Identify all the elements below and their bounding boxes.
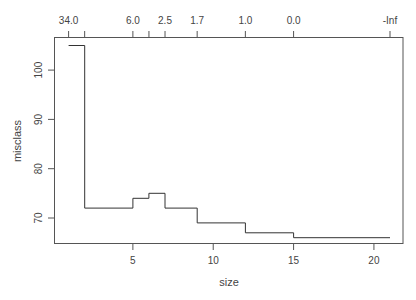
top-tick-label: 2.5 — [158, 15, 172, 26]
chart-container: 5101520 708090100 34.06.02.51.71.00.0-In… — [0, 0, 416, 300]
x-tick-label: 5 — [130, 255, 136, 266]
y-tick-label: 100 — [33, 61, 44, 78]
step-plot: 5101520 708090100 34.06.02.51.71.00.0-In… — [0, 0, 416, 300]
x-axis: 5101520 — [130, 244, 380, 267]
plot-frame — [55, 38, 404, 244]
top-tick-label: 1.0 — [238, 15, 252, 26]
misclass-step-line — [69, 46, 390, 238]
top-tick-label: 0.0 — [287, 15, 301, 26]
y-axis-label: misclass — [11, 119, 23, 162]
x-tick-label: 10 — [208, 255, 220, 266]
top-tick-label: -Inf — [383, 15, 398, 26]
x-tick-label: 15 — [288, 255, 300, 266]
top-tick-label: 34.0 — [59, 15, 79, 26]
y-tick-label: 80 — [33, 163, 44, 175]
x-tick-label: 20 — [368, 255, 380, 266]
x-axis-label: size — [219, 276, 239, 288]
y-tick-label: 90 — [33, 113, 44, 125]
y-axis: 708090100 — [33, 61, 55, 223]
top-tick-label: 1.7 — [190, 15, 204, 26]
top-tick-label: 6.0 — [126, 15, 140, 26]
top-axis: 34.06.02.51.71.00.0-Inf — [59, 15, 398, 38]
y-tick-label: 70 — [33, 212, 44, 224]
